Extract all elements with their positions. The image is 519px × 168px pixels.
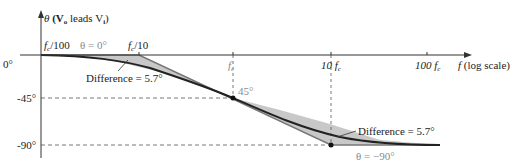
x-axis-label: f (log scale) bbox=[458, 60, 510, 71]
theta-minus90-label: θ = −90° bbox=[356, 151, 395, 162]
difference-label-high: Difference = 5.7° bbox=[358, 126, 435, 137]
x-tick-post: /10 bbox=[134, 39, 148, 51]
difference-label-low: Difference = 5.7° bbox=[86, 73, 163, 84]
x-tick-sub: c bbox=[231, 65, 234, 73]
y-tick-minus45: -45° bbox=[17, 93, 36, 104]
x-label-rest: (log scale) bbox=[461, 59, 510, 71]
x-tick-fc-100: fc/100 bbox=[44, 40, 70, 53]
y-tick-minus90: -90° bbox=[17, 140, 36, 151]
x-tick-post: /100 bbox=[50, 39, 70, 51]
point-45 bbox=[231, 96, 236, 101]
theta-zero-label: θ = 0° bbox=[80, 40, 107, 51]
theta-symbol: θ bbox=[44, 12, 49, 24]
x-tick-10fc: 10 fc bbox=[321, 60, 341, 73]
x-tick-fc-10: fc/10 bbox=[128, 40, 148, 53]
x-tick-pre: 10 f bbox=[321, 59, 338, 71]
x-tick-sub: c bbox=[437, 65, 440, 73]
x-tick-pre: 100 f bbox=[415, 59, 437, 71]
y-tick-0: 0° bbox=[3, 59, 13, 70]
y-label-part: (V bbox=[52, 12, 64, 24]
y-label-end: ) bbox=[105, 12, 109, 24]
point-45-label: 45° bbox=[238, 86, 253, 97]
point-10fc bbox=[329, 143, 334, 148]
x-tick-sub: c bbox=[338, 65, 341, 73]
x-tick-fc: fc bbox=[228, 60, 234, 73]
difference-region-high bbox=[233, 98, 440, 145]
y-label-mid: leads V bbox=[67, 12, 103, 24]
y-axis-label: θ (Vo leads Vi) bbox=[44, 13, 109, 26]
x-tick-100fc: 100 fc bbox=[415, 60, 440, 73]
x-axis-arrow-icon bbox=[464, 52, 472, 58]
